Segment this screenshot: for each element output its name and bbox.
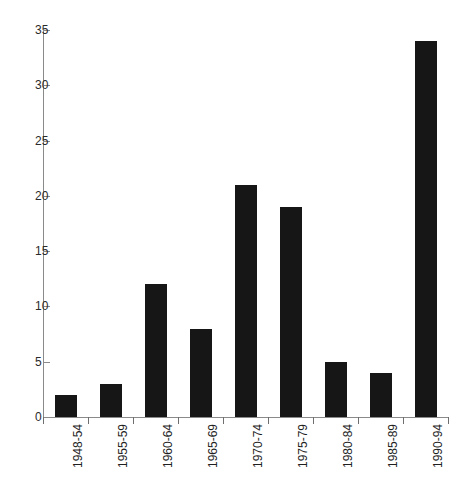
x-tick (403, 417, 404, 424)
x-axis-line (43, 417, 449, 418)
x-tick (358, 417, 359, 424)
bar (55, 395, 77, 417)
x-tick-label: 1985-89 (387, 424, 399, 468)
x-tick (133, 417, 134, 424)
x-tick-label: 1990-94 (432, 424, 444, 468)
x-tick-label: 1960-64 (162, 424, 174, 468)
bars-layer (43, 30, 448, 417)
x-tick (313, 417, 314, 424)
bar (190, 329, 212, 417)
x-tick-label: 1980-84 (342, 424, 354, 468)
x-tick-label: 1965-69 (207, 424, 219, 468)
x-tick-label: 1955-59 (117, 424, 129, 468)
bar (235, 185, 257, 417)
x-tick (88, 417, 89, 424)
x-tick-label: 1975-79 (297, 424, 309, 468)
x-tick (43, 417, 44, 424)
x-tick-label: 1948-54 (72, 424, 84, 468)
x-tick (223, 417, 224, 424)
x-tick (268, 417, 269, 424)
x-tick-label: 1970-74 (252, 424, 264, 468)
bar (370, 373, 392, 417)
x-tick (448, 417, 449, 424)
bar-chart: 05101520253035 1948-541955-591960-641965… (0, 0, 463, 492)
bar (145, 284, 167, 417)
bar (325, 362, 347, 417)
bar (100, 384, 122, 417)
bar (280, 207, 302, 417)
x-tick (178, 417, 179, 424)
y-tick-0 (43, 417, 50, 418)
bar (415, 41, 437, 417)
